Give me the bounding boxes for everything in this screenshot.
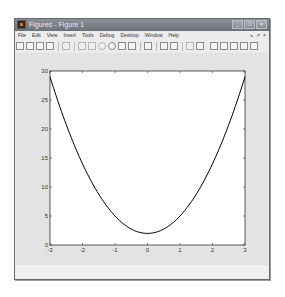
legend-icon[interactable] — [170, 42, 178, 50]
status-strip — [16, 265, 268, 278]
y-tick-label: 20 — [41, 126, 48, 132]
x-tick-label: 0 — [146, 247, 150, 253]
minimize-button[interactable]: _ — [232, 20, 243, 29]
menu-insert[interactable]: Insert — [60, 31, 79, 40]
figure-toolbar — [16, 40, 269, 52]
new-figure-icon[interactable] — [16, 42, 24, 50]
window-title: Figures - Figure 1 — [29, 20, 84, 30]
matlab-app-icon — [17, 20, 26, 29]
dock-arrow-icon[interactable]: ↗ — [256, 31, 260, 40]
toolbar-separator — [74, 42, 75, 51]
menu-window[interactable]: Window — [142, 31, 166, 40]
undock-arrow-icon[interactable]: ↘ — [249, 31, 253, 40]
maximize-button[interactable]: □ — [244, 20, 255, 29]
y-tick-label: 10 — [41, 184, 48, 190]
plot-axes[interactable]: -3-2-10123051015202530 — [16, 53, 268, 265]
zoom-out-icon[interactable] — [88, 42, 96, 50]
open-file-icon[interactable] — [26, 42, 34, 50]
close-button[interactable]: × — [256, 20, 267, 29]
figure-canvas: -3-2-10123051015202530 — [16, 53, 268, 265]
print-icon[interactable] — [46, 42, 54, 50]
title-bar[interactable]: Figures - Figure 1 _ □ × — [15, 19, 269, 31]
axes-box — [50, 71, 245, 245]
x-tick-label: -2 — [80, 247, 86, 253]
y-tick-label: 15 — [41, 155, 48, 161]
rotate-3d-icon[interactable] — [108, 42, 116, 50]
x-tick-label: -3 — [47, 247, 53, 253]
y-tick-label: 25 — [41, 97, 48, 103]
toolbar-separator — [156, 42, 157, 51]
menu-edit[interactable]: Edit — [29, 31, 44, 40]
menu-desktop[interactable]: Desktop — [117, 31, 141, 40]
figure-window: Figures - Figure 1 _ □ × File Edit View … — [14, 18, 270, 280]
colorbar-icon[interactable] — [160, 42, 168, 50]
tile-rows-icon[interactable] — [230, 42, 238, 50]
y-tick-label: 5 — [45, 213, 49, 219]
link-plot-icon[interactable] — [144, 42, 152, 50]
hide-plot-tools-icon[interactable] — [186, 42, 194, 50]
save-icon[interactable] — [36, 42, 44, 50]
maximize-icon[interactable] — [250, 42, 258, 50]
menu-bar: File Edit View Insert Tools Debug Deskto… — [15, 31, 269, 40]
tile-grid-icon[interactable] — [210, 42, 218, 50]
float-icon[interactable] — [240, 42, 248, 50]
toolbar-separator — [140, 42, 141, 51]
menu-help[interactable]: Help — [166, 31, 182, 40]
menu-tools[interactable]: Tools — [79, 31, 97, 40]
menu-view[interactable]: View — [44, 31, 61, 40]
pan-icon[interactable] — [98, 42, 106, 50]
tile-columns-icon[interactable] — [220, 42, 228, 50]
x-tick-label: 2 — [211, 247, 215, 253]
toolbar-separator — [182, 42, 183, 51]
y-tick-label: 30 — [41, 68, 48, 74]
menu-debug[interactable]: Debug — [97, 31, 118, 40]
brush-icon[interactable] — [128, 42, 136, 50]
menu-file[interactable]: File — [15, 31, 29, 40]
pointer-icon[interactable] — [62, 42, 70, 50]
x-tick-label: 1 — [178, 247, 182, 253]
zoom-in-icon[interactable] — [78, 42, 86, 50]
show-plot-tools-icon[interactable] — [196, 42, 204, 50]
data-cursor-icon[interactable] — [118, 42, 126, 50]
x-tick-label: -1 — [112, 247, 118, 253]
close-x-icon[interactable]: × — [263, 31, 266, 40]
toolbar-separator — [58, 42, 59, 51]
x-tick-label: 3 — [243, 247, 247, 253]
